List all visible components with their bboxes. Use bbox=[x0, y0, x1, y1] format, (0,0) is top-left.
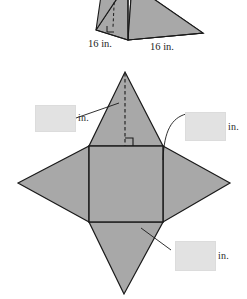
net-triangle-left bbox=[18, 146, 89, 222]
solid-base-right-dimension: 16 in. bbox=[150, 41, 174, 52]
base-edge-blank-box[interactable] bbox=[185, 112, 226, 141]
slant-height-blank-box[interactable] bbox=[35, 105, 76, 132]
solid-pyramid bbox=[96, 0, 203, 40]
net-square-base bbox=[89, 146, 163, 222]
net-triangle-bottom bbox=[89, 222, 163, 294]
triangle-face-unit-label: in. bbox=[218, 250, 229, 261]
geometry-figure: 16 in. 16 in. in. in. in. bbox=[0, 0, 247, 299]
solid-base-left-dimension: 16 in. bbox=[88, 38, 112, 49]
base-edge-unit-label: in. bbox=[228, 121, 239, 132]
net-triangle-top bbox=[89, 72, 163, 146]
triangle-face-blank-box[interactable] bbox=[175, 241, 216, 271]
slant-height-unit-label: in. bbox=[78, 112, 89, 123]
net-triangle-right bbox=[163, 146, 230, 222]
